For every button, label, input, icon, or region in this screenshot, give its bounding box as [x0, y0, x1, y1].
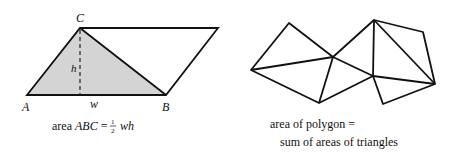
triangulation-edge: [333, 57, 373, 76]
svg-text:area ABC =: area ABC =: [52, 119, 108, 133]
left-figure: C A B w h area ABC = 1 2 wh: [21, 11, 218, 135]
triangulation-edge: [373, 76, 435, 84]
label-h: h: [71, 62, 77, 74]
label-w: w: [90, 97, 98, 111]
triangle-abc: [27, 28, 166, 95]
triangulation-edge: [251, 57, 333, 70]
triangulation-edge: [373, 20, 374, 76]
caption-area-formula: area ABC = 1 2 wh: [52, 118, 134, 135]
fraction-denominator: 2: [111, 127, 115, 135]
caption-polygon-line1: area of polygon =: [270, 117, 355, 131]
triangulation-edge: [374, 20, 435, 84]
caption-expr: wh: [120, 119, 134, 133]
fraction-numerator: 1: [111, 118, 115, 126]
caption-prefix: area: [52, 119, 75, 133]
caption-name: ABC: [74, 119, 99, 133]
diagram-canvas: C A B w h area ABC = 1 2 wh area of poly…: [0, 0, 458, 155]
label-c: C: [76, 11, 85, 25]
caption-polygon-line2: sum of areas of triangles: [280, 135, 398, 149]
label-b: B: [162, 100, 170, 114]
caption-equals: =: [98, 119, 108, 133]
label-a: A: [21, 100, 30, 114]
right-figure: [251, 20, 435, 104]
